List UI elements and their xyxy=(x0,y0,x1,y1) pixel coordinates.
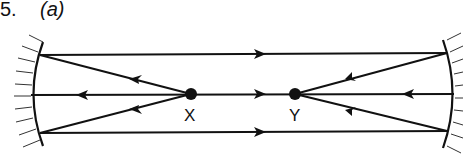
point-x xyxy=(185,88,197,100)
point-y xyxy=(289,88,301,100)
ray-diagram xyxy=(0,0,463,157)
point-x-label: X xyxy=(184,106,195,126)
point-y-label: Y xyxy=(289,106,300,126)
